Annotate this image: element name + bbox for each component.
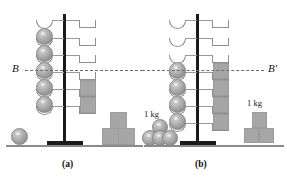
- shelf-arm-right-a-6: [66, 106, 80, 107]
- shelf-bracket-right-a-4: [79, 72, 96, 80]
- panel-label-a: (a): [62, 160, 73, 170]
- shelf-arm-left-b-1: [185, 20, 197, 21]
- sphere-a-left-4: [36, 79, 53, 96]
- shelf-arm-right-b-4: [199, 72, 213, 73]
- shelf-cup-left-b-2: [169, 38, 186, 47]
- shelf-arm-left-a-1: [52, 20, 64, 21]
- shelf-bracket-right-a-3: [79, 55, 96, 63]
- floor-cube-a-top: [110, 112, 127, 129]
- shelf-arm-left-b-4: [185, 72, 197, 73]
- floor-sphere-a: [11, 128, 28, 145]
- panel-label-b: (b): [195, 160, 207, 170]
- shelf-arm-left-b-6: [185, 106, 197, 107]
- floor-cube-a-bottom-left: [102, 128, 119, 145]
- cube-b-right-1: [213, 63, 229, 79]
- shelf-bracket-right-a-1: [79, 20, 96, 28]
- reference-line-b: [25, 70, 143, 71]
- shelf-arm-right-a-1: [66, 20, 80, 21]
- ground-line-a: [6, 145, 143, 147]
- shelf-bracket-right-b-2: [212, 38, 229, 46]
- sphere-b-left-4: [169, 113, 186, 130]
- cube-b-right-3: [213, 97, 229, 113]
- shelf-arm-left-a-3: [52, 55, 64, 56]
- cube-b-right-4: [213, 114, 229, 130]
- figure-canvas: B (a): [0, 0, 287, 183]
- floor-cube-b-bottom-right: [259, 128, 274, 143]
- cube-b-right-2: [213, 80, 229, 96]
- floor-sphere-pile-b-bottom-3: [162, 130, 178, 146]
- ground-line-b: [144, 145, 284, 147]
- shelf-arm-right-b-5: [199, 89, 213, 90]
- panel-b: 1 kg 1 kg B′ (b): [144, 0, 287, 183]
- rack-base-a: [47, 141, 83, 145]
- shelf-bracket-right-b-3: [212, 55, 229, 63]
- sphere-b-left-3: [169, 96, 186, 113]
- rack-base-b: [180, 141, 216, 145]
- shelf-arm-left-a-4: [52, 72, 64, 73]
- shelf-arm-right-a-5: [66, 89, 80, 90]
- panel-a: B (a): [0, 0, 143, 183]
- sphere-a-left-2: [36, 45, 53, 62]
- shelf-arm-right-b-6: [199, 106, 213, 107]
- shelf-arm-left-b-7: [185, 123, 197, 124]
- shelf-arm-left-a-6: [52, 106, 64, 107]
- rack-rod-a: [63, 14, 66, 145]
- shelf-arm-right-b-3: [199, 55, 213, 56]
- shelf-cup-left-b-1: [169, 20, 186, 29]
- shelf-arm-right-a-3: [66, 55, 80, 56]
- sphere-a-left-1: [36, 28, 53, 45]
- sphere-b-left-2: [169, 79, 186, 96]
- reference-line-b-prime: [142, 70, 264, 71]
- reference-label-b-prime: B′: [268, 63, 277, 74]
- shelf-arm-left-b-3: [185, 55, 197, 56]
- cube-a-right-2: [80, 97, 96, 113]
- reference-label-b: B: [12, 63, 19, 74]
- shelf-arm-right-b-7: [199, 123, 213, 124]
- floor-cube-b-stack-top: [252, 112, 267, 128]
- shelf-arm-left-a-2: [52, 38, 64, 39]
- shelf-arm-right-a-4: [66, 72, 80, 73]
- mass-label-b-left: 1 kg: [144, 110, 159, 119]
- mass-label-b-right: 1 kg: [247, 99, 262, 108]
- rack-rod-b: [196, 14, 199, 145]
- shelf-arm-left-a-5: [52, 89, 64, 90]
- shelf-arm-right-b-2: [199, 38, 213, 39]
- shelf-arm-left-b-5: [185, 89, 197, 90]
- shelf-arm-right-a-2: [66, 38, 80, 39]
- cube-a-right-1: [80, 80, 96, 96]
- floor-cube-b-bottom-left: [244, 128, 259, 143]
- shelf-bracket-right-b-1: [212, 20, 229, 28]
- shelf-bracket-right-a-2: [79, 38, 96, 46]
- shelf-arm-right-b-1: [199, 20, 213, 21]
- shelf-arm-left-b-2: [185, 38, 197, 39]
- floor-cube-a-bottom-right: [118, 128, 135, 145]
- sphere-a-left-5: [36, 96, 53, 113]
